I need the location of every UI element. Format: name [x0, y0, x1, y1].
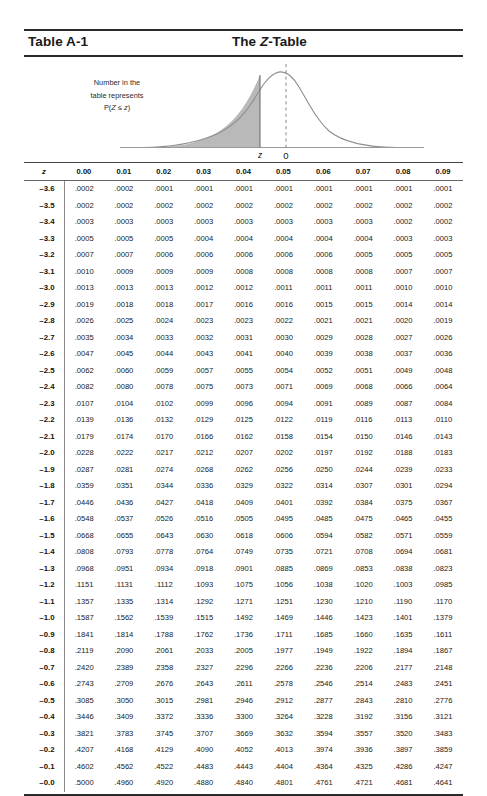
probability-cell: .0004 — [184, 231, 224, 248]
probability-cell: .2206 — [343, 660, 383, 677]
probability-cell: .1423 — [343, 610, 383, 627]
table-row: –0.5.3085.3050.3015.2981.2946.2912.2877.… — [24, 693, 463, 710]
probability-cell: .0985 — [423, 577, 463, 594]
probability-cell: .0010 — [423, 280, 463, 297]
row-header-z-value: –1.3 — [24, 561, 64, 578]
probability-cell: .2611 — [224, 676, 264, 693]
probability-cell: .2236 — [303, 660, 343, 677]
table-row: –1.6.0548.0537.0526.0516.0505.0495.0485.… — [24, 511, 463, 528]
row-header-z-value: –0.1 — [24, 759, 64, 776]
probability-cell: .3156 — [383, 709, 423, 726]
probability-cell: .1736 — [224, 627, 264, 644]
probability-cell: .0485 — [303, 511, 343, 528]
row-header-z-value: –2.1 — [24, 429, 64, 446]
probability-cell: .4721 — [343, 775, 383, 792]
probability-cell: .0294 — [423, 478, 463, 495]
probability-cell: .0004 — [224, 231, 264, 248]
probability-cell: .0764 — [184, 544, 224, 561]
row-header-z-value: –1.8 — [24, 478, 64, 495]
probability-cell: .4880 — [184, 775, 224, 792]
probability-cell: .0008 — [224, 264, 264, 281]
probability-cell: .0001 — [423, 181, 463, 198]
probability-cell: .0559 — [423, 528, 463, 545]
probability-cell: .0475 — [343, 511, 383, 528]
probability-cell: .0025 — [104, 313, 144, 330]
probability-cell: .0007 — [383, 264, 423, 281]
probability-cell: .0073 — [224, 379, 264, 396]
probability-cell: .3446 — [64, 709, 104, 726]
table-row: –1.2.1151.1131.1112.1093.1075.1056.1038.… — [24, 577, 463, 594]
row-header-z-value: –2.7 — [24, 330, 64, 347]
probability-cell: .0060 — [104, 363, 144, 380]
probability-cell: .1814 — [104, 627, 144, 644]
row-header-z-value: –2.0 — [24, 445, 64, 462]
probability-cell: .1210 — [343, 594, 383, 611]
probability-cell: .2946 — [224, 693, 264, 710]
probability-cell: .0618 — [224, 528, 264, 545]
probability-cell: .0038 — [343, 346, 383, 363]
probability-cell: .0643 — [144, 528, 184, 545]
probability-cell: .3300 — [224, 709, 264, 726]
row-header-z-value: –3.5 — [24, 198, 64, 215]
table-row: –0.1.4602.4562.4522.4483.4443.4404.4364.… — [24, 759, 463, 776]
probability-cell: .0043 — [184, 346, 224, 363]
probability-cell: .0001 — [303, 181, 343, 198]
probability-cell: .0314 — [303, 478, 343, 495]
probability-cell: .0228 — [64, 445, 104, 462]
table-row: –2.0.0228.0222.0217.0212.0207.0202.0197.… — [24, 445, 463, 462]
probability-cell: .0004 — [303, 231, 343, 248]
probability-cell: .0162 — [224, 429, 264, 446]
probability-cell: .4286 — [383, 759, 423, 776]
probability-cell: .0119 — [303, 412, 343, 429]
probability-cell: .2643 — [184, 676, 224, 693]
header-bottom-rule — [24, 55, 463, 57]
z-table-page: Table A-1 The Z-Table z 0 Number in the … — [0, 29, 487, 794]
probability-cell: .0694 — [383, 544, 423, 561]
probability-cell: .0005 — [343, 247, 383, 264]
row-header-z-value: –0.2 — [24, 742, 64, 759]
page-title-variable: Z — [260, 34, 268, 49]
probability-cell: .0068 — [343, 379, 383, 396]
probability-cell: .3594 — [303, 726, 343, 743]
probability-cell: .3520 — [383, 726, 423, 743]
probability-cell: .0037 — [383, 346, 423, 363]
probability-cell: .4052 — [224, 742, 264, 759]
probability-cell: .0281 — [104, 462, 144, 479]
probability-cell: .0052 — [303, 363, 343, 380]
probability-cell: .0011 — [263, 280, 303, 297]
table-row: –0.3.3821.3783.3745.3707.3669.3632.3594.… — [24, 726, 463, 743]
probability-cell: .2743 — [64, 676, 104, 693]
probability-cell: .0606 — [263, 528, 303, 545]
table-row: –3.2.0007.0007.0006.0006.0006.0006.0006.… — [24, 247, 463, 264]
figure-caption-formula: P(Z ≤ z) — [58, 102, 176, 115]
probability-cell: .0048 — [423, 363, 463, 380]
probability-cell: .0020 — [383, 313, 423, 330]
table-row: –1.9.0287.0281.0274.0268.0262.0256.0250.… — [24, 462, 463, 479]
probability-cell: .4129 — [144, 742, 184, 759]
probability-cell: .0630 — [184, 528, 224, 545]
probability-cell: .0006 — [224, 247, 264, 264]
probability-cell: .0351 — [104, 478, 144, 495]
probability-cell: .0003 — [64, 214, 104, 231]
probability-cell: .0010 — [383, 280, 423, 297]
probability-cell: .0013 — [144, 280, 184, 297]
probability-cell: .0516 — [184, 511, 224, 528]
probability-cell: .2148 — [423, 660, 463, 677]
probability-cell: .0005 — [383, 247, 423, 264]
probability-cell: .0212 — [184, 445, 224, 462]
probability-cell: .0023 — [184, 313, 224, 330]
probability-cell: .0018 — [104, 297, 144, 314]
probability-cell: .0002 — [104, 198, 144, 215]
probability-cell: .0011 — [343, 280, 383, 297]
table-row: –1.4.0808.0793.0778.0764.0749.0735.0721.… — [24, 544, 463, 561]
probability-cell: .0401 — [263, 495, 303, 512]
probability-cell: .0125 — [224, 412, 264, 429]
probability-cell: .0001 — [263, 181, 303, 198]
probability-cell: .0217 — [144, 445, 184, 462]
probability-cell: .1894 — [383, 643, 423, 660]
probability-cell: .0336 — [184, 478, 224, 495]
probability-cell: .1611 — [423, 627, 463, 644]
probability-cell: .0002 — [64, 181, 104, 198]
probability-cell: .0256 — [263, 462, 303, 479]
column-header-0.02: 0.02 — [144, 163, 184, 181]
